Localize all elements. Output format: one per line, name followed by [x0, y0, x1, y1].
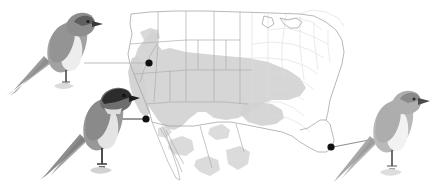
bird-right-head	[392, 91, 430, 115]
beak	[418, 98, 430, 105]
bird-middle-left	[40, 76, 140, 184]
bird-right-perch	[380, 169, 402, 176]
bird-middle-left-tail	[40, 134, 86, 182]
locality-marker-southwest[interactable]	[142, 115, 149, 122]
eye	[413, 98, 416, 101]
bird-middle-left-legs	[97, 148, 107, 167]
bird-right	[334, 80, 433, 184]
locality-marker-northwest[interactable]	[145, 59, 152, 66]
range-map-figure: Interior / northern form Coastal / dark-…	[0, 0, 433, 184]
bird-middle-left-head	[100, 88, 140, 114]
beak	[92, 21, 103, 27]
bird-right-legs	[387, 150, 397, 169]
beak	[129, 95, 140, 102]
eye	[86, 20, 89, 23]
eye	[122, 94, 125, 97]
bird-top-left-head	[66, 13, 103, 37]
bird-middle-left-perch	[90, 167, 112, 174]
bird-right-tail	[334, 136, 376, 183]
